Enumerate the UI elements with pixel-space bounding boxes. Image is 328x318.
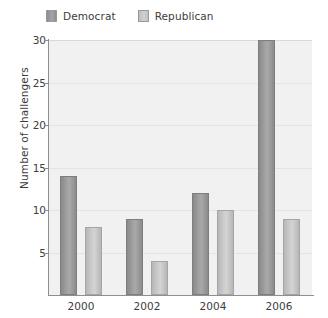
legend-label-republican: Republican — [155, 10, 214, 22]
bar-republican-2004 — [217, 210, 234, 295]
legend-item-republican: Republican — [138, 10, 214, 22]
bar-republican-2006 — [283, 219, 300, 296]
democrat-swatch-icon — [46, 10, 57, 22]
y-tick-label-20: 20 — [6, 119, 46, 131]
x-axis-line — [48, 295, 314, 296]
y-tick-label-10: 10 — [6, 204, 46, 216]
x-tick-label-2002: 2002 — [117, 300, 177, 312]
bar-chart: Democrat Republican Number of challenger… — [0, 0, 328, 318]
chart-legend: Democrat Republican — [46, 8, 214, 24]
y-tick-mark-15 — [44, 168, 48, 169]
x-tick-label-2006: 2006 — [249, 300, 309, 312]
y-tick-label-5: 5 — [6, 247, 46, 259]
bar-democrat-2002 — [126, 219, 143, 296]
y-tick-label-30: 30 — [6, 34, 46, 46]
y-tick-mark-5 — [44, 253, 48, 254]
y-tick-mark-25 — [44, 83, 48, 84]
bar-republican-2000 — [85, 227, 102, 295]
y-tick-mark-20 — [44, 125, 48, 126]
x-tick-label-2000: 2000 — [51, 300, 111, 312]
bar-democrat-2004 — [192, 193, 209, 295]
y-tick-label-15: 15 — [6, 162, 46, 174]
legend-label-democrat: Democrat — [63, 10, 116, 22]
republican-swatch-icon — [138, 10, 149, 22]
bar-democrat-2006 — [258, 40, 275, 295]
bar-democrat-2000 — [60, 176, 77, 295]
plot-area — [48, 40, 312, 295]
y-tick-label-25: 25 — [6, 77, 46, 89]
y-axis-line — [48, 39, 49, 296]
legend-item-democrat: Democrat — [46, 10, 116, 22]
x-tick-label-2004: 2004 — [183, 300, 243, 312]
bar-republican-2002 — [151, 261, 168, 295]
y-tick-mark-30 — [44, 40, 48, 41]
y-tick-mark-10 — [44, 210, 48, 211]
